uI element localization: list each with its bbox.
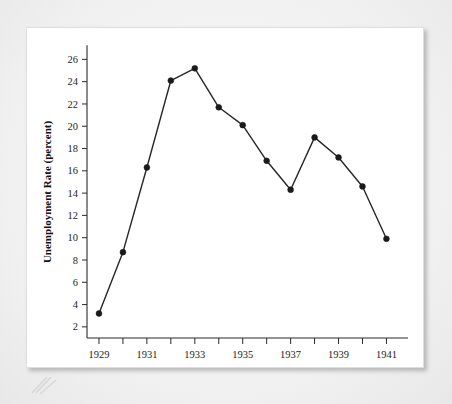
line-chart: 2468101214161820222426 19291931193319351… bbox=[27, 28, 423, 367]
x-axis: 1929193119331935193719391941 bbox=[87, 338, 408, 360]
x-tick-label: 1929 bbox=[88, 349, 109, 360]
data-point bbox=[384, 236, 390, 242]
x-tick-label: 1935 bbox=[232, 349, 253, 360]
data-point bbox=[216, 104, 222, 110]
data-point bbox=[120, 249, 126, 255]
y-tick-label: 6 bbox=[73, 277, 78, 288]
data-point bbox=[168, 78, 174, 84]
data-series-unemployment bbox=[96, 65, 389, 316]
x-tick-label: 1931 bbox=[136, 349, 157, 360]
y-tick-label: 24 bbox=[68, 76, 79, 87]
data-point bbox=[288, 187, 294, 193]
x-tick-label: 1941 bbox=[376, 349, 397, 360]
data-point bbox=[144, 165, 150, 171]
chart-svg: 2468101214161820222426 19291931193319351… bbox=[27, 28, 423, 367]
data-point bbox=[264, 158, 270, 164]
y-tick-label: 26 bbox=[68, 54, 79, 65]
y-tick-label: 4 bbox=[73, 299, 79, 310]
y-tick-label: 12 bbox=[68, 210, 79, 221]
y-tick-label: 16 bbox=[68, 165, 79, 176]
figure-card: 2468101214161820222426 19291931193319351… bbox=[26, 27, 424, 368]
page-root: 2468101214161820222426 19291931193319351… bbox=[0, 0, 452, 404]
x-tick-label: 1937 bbox=[280, 349, 301, 360]
data-point bbox=[312, 134, 318, 140]
data-point bbox=[240, 122, 246, 128]
data-point bbox=[192, 65, 198, 71]
data-point bbox=[96, 311, 102, 317]
y-tick-label: 20 bbox=[68, 121, 79, 132]
x-tick-label: 1933 bbox=[184, 349, 205, 360]
y-tick-label: 18 bbox=[68, 143, 79, 154]
y-tick-label: 2 bbox=[73, 321, 78, 332]
scan-artifact-mark bbox=[30, 374, 70, 396]
data-point bbox=[360, 184, 366, 190]
y-tick-label: 22 bbox=[68, 99, 79, 110]
y-tick-label: 14 bbox=[68, 188, 79, 199]
y-axis: 2468101214161820222426 bbox=[68, 45, 88, 338]
x-tick-label: 1939 bbox=[328, 349, 349, 360]
y-tick-label: 8 bbox=[73, 255, 78, 266]
y-tick-label: 10 bbox=[68, 232, 79, 243]
data-point bbox=[336, 155, 342, 161]
y-axis-title: Unemployment Rate (percent) bbox=[41, 121, 54, 263]
